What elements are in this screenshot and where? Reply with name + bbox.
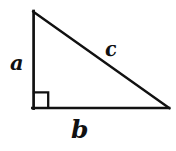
- hypotenuse-c-line: [33, 11, 170, 108]
- label-side-a: a: [10, 52, 24, 73]
- right-triangle-figure: a b c: [0, 0, 176, 151]
- right-angle-marker: [34, 92, 48, 107]
- label-side-b: b: [71, 117, 88, 142]
